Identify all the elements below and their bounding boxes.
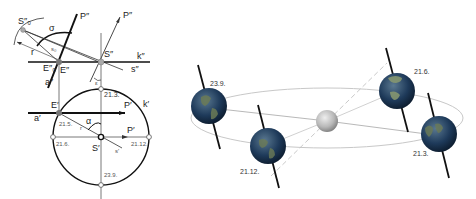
point-s-single — [98, 134, 103, 139]
label-s-double: S″ — [104, 49, 114, 59]
earth-21-6 — [379, 48, 415, 132]
label-e-single: E′ — [51, 100, 59, 110]
point-e-single — [56, 110, 62, 116]
date-label-21-6: 21.6. — [414, 68, 430, 75]
point-right-21-12 — [147, 135, 152, 140]
label-p-single-1: P′ — [124, 100, 132, 110]
globe-23-9 — [191, 88, 227, 124]
label-s-single: S′ — [92, 143, 100, 153]
point-top-21-3 — [99, 87, 104, 92]
label-r-lower: r — [80, 125, 82, 131]
label-sigma: σ — [49, 23, 55, 33]
date-label-21-3: 21.3. — [413, 150, 429, 157]
label-r-upper: r — [31, 47, 34, 57]
label-e-double-zero: E″₀ — [43, 63, 56, 73]
projection-construction-svg: S″₀ P″ P″ σ r s₀ E″₀ E″ S″ k″ s″ a″ ε 21… — [0, 0, 175, 199]
earth-orbit-diagram: 23.9. 21.12. 21.6. 21.3. — [185, 0, 476, 199]
label-a-single: a′ — [34, 113, 41, 123]
date-label-23-9: 23.9. — [210, 80, 226, 87]
label-p-single-2: P′ — [127, 125, 135, 135]
label-p-double-2: P″ — [123, 10, 133, 20]
label-alpha: α — [86, 116, 91, 126]
label-s-single-lower: s′ — [115, 148, 120, 154]
label-a-double: a″ — [45, 77, 54, 87]
arrow-p-single-2 — [122, 135, 128, 139]
label-e-double: E″ — [60, 65, 70, 75]
earth-orbit-svg: 23.9. 21.12. 21.6. 21.3. — [185, 0, 476, 199]
point-bottom-23-9 — [99, 183, 104, 188]
date-label-21-12: 21.12. — [240, 168, 260, 175]
point-left-21-6 — [51, 135, 56, 140]
label-s-zero: s₀ — [51, 46, 57, 52]
date-21-12-left: 21.12. — [131, 141, 148, 147]
date-21-5: 21.5. — [59, 121, 73, 127]
label-k-double: k″ — [137, 51, 146, 61]
sun — [316, 110, 338, 132]
line-sun-23-9 — [211, 108, 327, 121]
point-s-double — [98, 59, 104, 65]
earth-21-12 — [250, 105, 286, 188]
date-21-3-left: 21.3. — [104, 91, 120, 98]
earth-23-9 — [191, 65, 227, 149]
arrow-p-double — [116, 17, 120, 23]
projection-construction-diagram: S″₀ P″ P″ σ r s₀ E″₀ E″ S″ k″ s″ a″ ε 21… — [0, 0, 175, 199]
globe-21-12 — [250, 128, 286, 164]
date-23-9-left: 23.9. — [104, 172, 118, 178]
date-21-6-left: 21.6. — [56, 141, 70, 147]
label-epsilon: ε — [95, 80, 98, 86]
label-s-double-lower: s″ — [131, 64, 140, 74]
label-p-double-1: P″ — [80, 11, 90, 21]
arrow-p-single-1 — [119, 111, 125, 115]
label-k-single: k′ — [143, 99, 150, 109]
point-s-double-zero — [21, 28, 26, 33]
label-s-double-zero: S″₀ — [18, 16, 31, 26]
